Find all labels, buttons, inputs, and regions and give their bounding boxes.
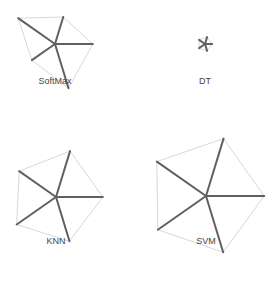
radar-spoke-axis-4: [32, 44, 55, 60]
radar-label: SoftMax: [38, 76, 72, 86]
radar-spoke-axis-4: [17, 197, 56, 225]
radar-label: SVM: [196, 236, 216, 246]
radar-spoke-axis-5: [199, 40, 205, 44]
radar-spoke-axis-1: [206, 139, 224, 196]
radar-spoke-axis-5: [19, 171, 56, 197]
radar-spoke-axis-4: [199, 44, 205, 48]
radar-spoke-axis-1: [56, 151, 70, 197]
radar-softmax: SoftMax: [18, 17, 93, 88]
radar-knn: KNN: [17, 151, 103, 246]
radar-svm: SVM: [157, 139, 264, 253]
radar-spoke-axis-5: [18, 18, 55, 44]
radar-spoke-axis-3: [56, 197, 70, 241]
radar-small-multiples: SoftMaxDTKNNSVM: [0, 0, 277, 282]
radar-spoke-axis-1: [55, 17, 63, 44]
radar-label: KNN: [46, 236, 65, 246]
radar-spoke-axis-4: [158, 196, 206, 230]
radar-label: DT: [199, 76, 211, 86]
radar-spoke-axis-5: [157, 162, 206, 196]
radar-dt: DT: [199, 37, 212, 86]
